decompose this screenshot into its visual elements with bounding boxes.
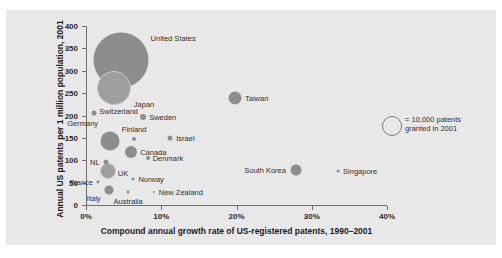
plot-area: 0%10%20%30%40% 050100150200250300350400 … <box>6 10 496 245</box>
point-label-sweden: Sweden <box>149 113 176 122</box>
point-label-france: France <box>70 177 93 186</box>
point-label-singapore: Singapore <box>343 166 377 175</box>
y-tick <box>82 160 86 161</box>
point-label-israel: Israel <box>176 133 194 142</box>
bubble-taiwan[interactable] <box>228 91 241 104</box>
x-tick-label: 20% <box>228 212 244 221</box>
bubble-japan[interactable] <box>97 71 131 105</box>
bubble-denmark[interactable] <box>146 156 150 160</box>
bubble-australia[interactable] <box>127 191 130 194</box>
point-label-denmark: Denmark <box>153 154 183 163</box>
y-tick <box>82 205 86 206</box>
x-tick <box>161 206 162 210</box>
figure: 0%10%20%30%40% 050100150200250300350400 … <box>0 0 502 258</box>
bubble-canada[interactable] <box>125 146 137 158</box>
bubble-new-zealand[interactable] <box>153 191 155 193</box>
bubble-switzerland[interactable] <box>92 111 97 116</box>
x-tick-label: 0% <box>80 212 92 221</box>
bubble-nl[interactable] <box>103 159 108 164</box>
bubble-italy[interactable] <box>104 186 113 195</box>
point-label-new-zealand: New Zealand <box>159 188 203 197</box>
point-label-switzerland: Switzerland <box>99 107 138 116</box>
point-label-united-states: United States <box>151 33 196 42</box>
x-tick-label: 40% <box>379 212 395 221</box>
y-tick <box>82 93 86 94</box>
y-tick <box>82 116 86 117</box>
x-tick <box>387 206 388 210</box>
y-tick <box>82 71 86 72</box>
point-label-australia: Australia <box>114 197 143 206</box>
point-label-uk: UK <box>118 169 128 178</box>
point-label-italy: Italy <box>87 194 101 203</box>
legend: = 10,000 patents granted in 2001 <box>380 110 490 170</box>
bubble-israel[interactable] <box>168 135 173 140</box>
bubble-finland[interactable] <box>132 137 136 141</box>
point-label-nl: NL <box>90 157 100 166</box>
bubble-france[interactable] <box>97 180 100 183</box>
y-axis-title: Annual US patents per 1 million populati… <box>55 19 65 219</box>
point-label-finland: Finland <box>122 124 147 133</box>
point-label-norway: Norway <box>138 175 163 184</box>
legend-bubble-icon <box>382 116 402 136</box>
bubble-uk[interactable] <box>100 163 116 179</box>
y-tick <box>82 48 86 49</box>
x-tick-label: 30% <box>304 212 320 221</box>
y-tick <box>82 26 86 27</box>
point-label-taiwan: Taiwan <box>245 93 268 102</box>
x-tick <box>86 206 87 210</box>
x-tick <box>237 206 238 210</box>
x-tick-label: 10% <box>153 212 169 221</box>
bubble-germany[interactable] <box>101 132 120 151</box>
point-label-south-korea: South Korea <box>244 166 286 175</box>
bubble-singapore[interactable] <box>337 169 340 172</box>
bubble-south-korea[interactable] <box>290 165 301 176</box>
y-tick <box>82 138 86 139</box>
bubble-sweden[interactable] <box>140 114 146 120</box>
bubble-norway[interactable] <box>132 178 135 181</box>
x-axis-title: Compound annual growth rate of US-regist… <box>86 226 387 236</box>
x-tick <box>312 206 313 210</box>
point-label-germany: Germany <box>67 119 98 128</box>
chart-panel: 0%10%20%30%40% 050100150200250300350400 … <box>6 10 496 245</box>
legend-label: = 10,000 patents granted in 2001 <box>405 115 485 133</box>
